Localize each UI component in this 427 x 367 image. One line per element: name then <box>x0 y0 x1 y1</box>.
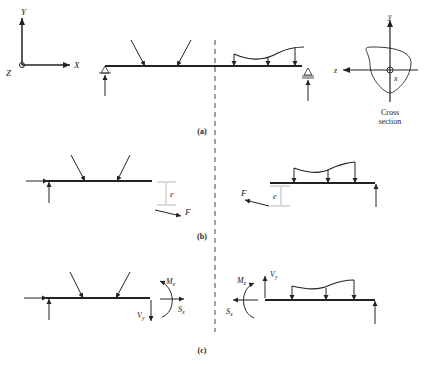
force-arrow-f <box>155 210 181 216</box>
y-axis-label: Y <box>21 7 27 17</box>
z-axis-label: Z <box>6 68 12 78</box>
panel-b-left: e F <box>26 155 191 217</box>
section-y-label: y <box>387 12 392 21</box>
moment-label: Mz <box>165 277 176 287</box>
force-label: F <box>184 207 191 217</box>
shear-label: Vy <box>270 270 278 280</box>
roller-support-icon <box>304 68 312 75</box>
caption-c: (c) <box>198 346 207 355</box>
panel-c-right: Vy Sx Mz <box>226 270 375 324</box>
shear-label: Vy <box>137 311 145 321</box>
inclined-load-1 <box>71 155 85 181</box>
eccentricity-label: e <box>170 190 174 199</box>
axial-label: Sx <box>178 305 185 315</box>
caption-b: (b) <box>197 232 207 241</box>
cross-section: y z x Cross section <box>333 12 418 126</box>
pin-support-icon <box>101 66 109 73</box>
panel-c-left: Vy Sx Mz <box>24 272 185 321</box>
inclined-load-1 <box>131 40 145 66</box>
caption-a: (a) <box>197 127 207 136</box>
inclined-load-2 <box>116 272 130 298</box>
beam-free-body-diagram: Y X Z y z x Cross section <box>0 0 427 367</box>
distributed-load-curve <box>294 162 355 172</box>
distributed-load-curve <box>292 280 354 289</box>
force-label: F <box>240 188 247 198</box>
section-z-label: z <box>333 66 338 75</box>
x-axis-label: X <box>73 60 80 70</box>
force-arrow-f <box>245 200 269 206</box>
inclined-load-2 <box>117 155 130 181</box>
global-axes: Y X Z <box>6 7 80 78</box>
panel-b-right: e F <box>240 162 376 207</box>
inclined-load-1 <box>70 272 83 298</box>
eccentricity-label: e <box>273 192 277 201</box>
cross-section-caption-1: Cross <box>381 108 399 117</box>
axial-label: Sx <box>226 307 233 317</box>
panel-a-beam <box>99 40 314 101</box>
inclined-load-2 <box>177 40 191 66</box>
distributed-load-curve <box>234 47 304 59</box>
cross-section-caption-2: section <box>379 117 402 126</box>
section-x-label: x <box>393 74 398 83</box>
moment-label: Mz <box>236 276 247 286</box>
